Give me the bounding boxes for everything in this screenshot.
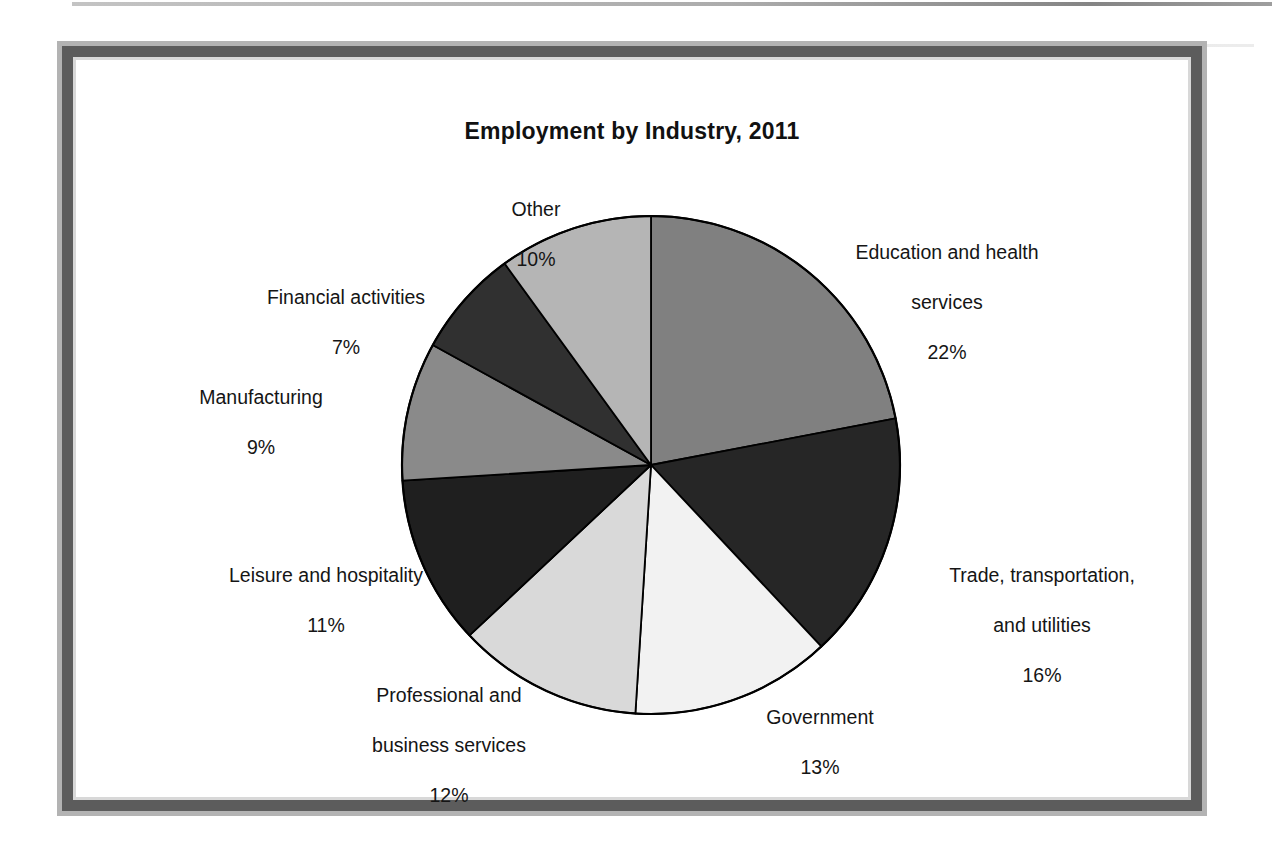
slice-label-education: Education and health services 22% (822, 215, 1072, 390)
scan-artifact-line-top (72, 2, 1272, 6)
slice-label-other: Other 10% (436, 172, 636, 297)
slice-value-trade: 16% (912, 663, 1172, 688)
slice-label-professional-line2: business services (334, 733, 564, 758)
slice-value-education: 22% (822, 340, 1072, 365)
slice-label-other-line1: Other (436, 197, 636, 222)
slice-value-other: 10% (436, 247, 636, 272)
chart-canvas: Employment by Industry, 2011 Education a… (73, 57, 1191, 800)
slice-label-leisure-line1: Leisure and hospitality (186, 563, 466, 588)
slice-label-trade-line1: Trade, transportation, (912, 563, 1172, 588)
slice-value-leisure: 11% (186, 613, 466, 638)
slice-label-professional: Professional and business services 12% (334, 658, 564, 833)
slice-value-professional: 12% (334, 783, 564, 808)
slice-value-financial: 7% (216, 335, 476, 360)
slice-label-government: Government 13% (710, 680, 930, 805)
slice-label-professional-line1: Professional and (334, 683, 564, 708)
slice-label-manufacturing-line1: Manufacturing (136, 385, 386, 410)
slice-label-trade: Trade, transportation, and utilities 16% (912, 538, 1172, 713)
figure-frame-band: Employment by Industry, 2011 Education a… (62, 46, 1202, 811)
slice-label-education-line1: Education and health (822, 240, 1072, 265)
slice-label-leisure: Leisure and hospitality 11% (186, 538, 466, 663)
slice-label-government-line1: Government (710, 705, 930, 730)
slice-value-manufacturing: 9% (136, 435, 386, 460)
pie-chart-area: Education and health services 22% Trade,… (76, 60, 1188, 797)
slice-label-education-line2: services (822, 290, 1072, 315)
figure-outer-frame: Employment by Industry, 2011 Education a… (57, 41, 1207, 816)
slice-value-government: 13% (710, 755, 930, 780)
slice-label-trade-line2: and utilities (912, 613, 1172, 638)
